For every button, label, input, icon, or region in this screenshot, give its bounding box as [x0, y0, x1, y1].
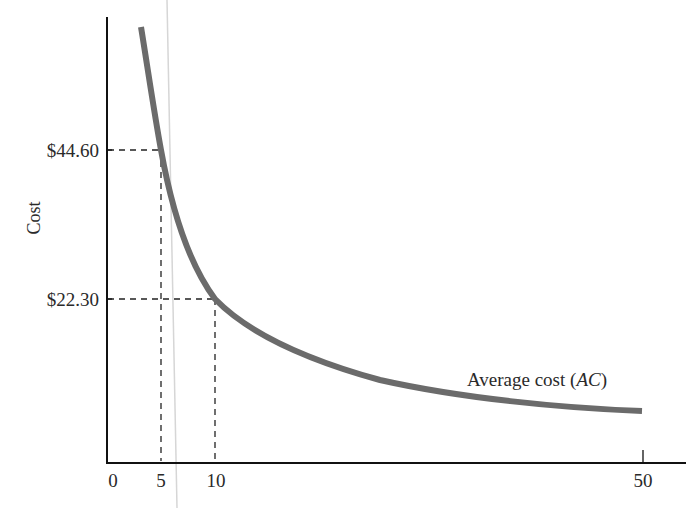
curve-label-close: ) [601, 369, 607, 391]
y-tick-label-44-60: $44.60 [47, 140, 99, 161]
x-tick-label-5: 5 [156, 470, 166, 491]
scan-artifact-line [167, 0, 177, 508]
x-tick-label-50: 50 [634, 470, 653, 491]
y-axis-label: Cost [24, 201, 44, 234]
curve-label-main: Average cost ( [467, 369, 576, 391]
curve-label-abbr: AC [574, 369, 601, 390]
x-tick-label-0: 0 [108, 470, 118, 491]
average-cost-curve [141, 27, 642, 411]
x-tick-label-10: 10 [207, 470, 226, 491]
curve-label: Average cost (AC) [467, 369, 607, 391]
y-tick-label-22-30: $22.30 [47, 289, 99, 310]
average-cost-chart: $44.60 $22.30 Cost 0 5 10 50 Average cos… [0, 0, 691, 508]
guide-lines [108, 150, 215, 461]
